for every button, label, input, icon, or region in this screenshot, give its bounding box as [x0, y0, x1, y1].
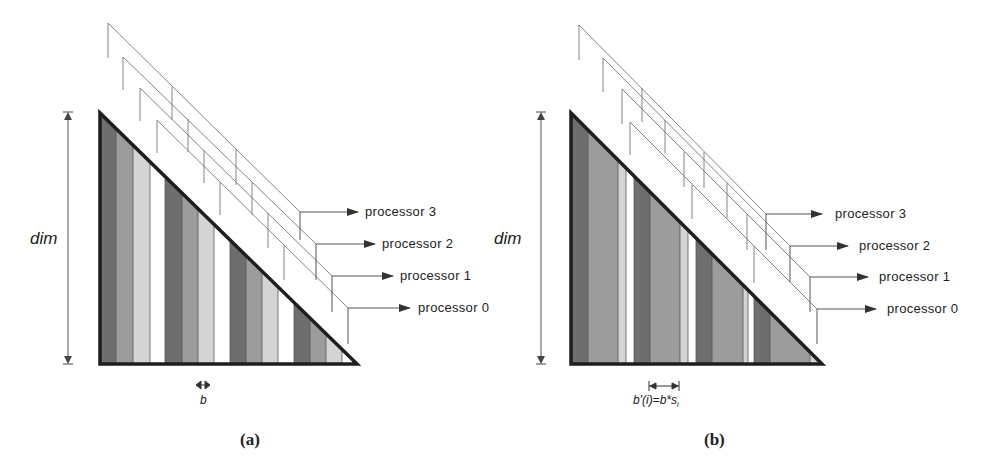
block-width-arrow-b: [649, 381, 679, 391]
block-width-arrow-a: [196, 381, 210, 389]
panel-b: [536, 25, 876, 370]
processor-1-label-b: processor 1: [879, 269, 950, 284]
panel-a: [63, 23, 410, 370]
processor-2-label-a: processor 2: [382, 236, 453, 251]
block-width-label-a: b: [200, 393, 207, 407]
processor-3-label-a: processor 3: [365, 204, 436, 219]
processor-0-label-b: processor 0: [887, 301, 958, 316]
processor-0-label-a: processor 0: [418, 300, 489, 315]
processor-1-label-a: processor 1: [400, 268, 471, 283]
dim-label-b: dim: [494, 229, 521, 249]
caption-b: (b): [704, 430, 725, 450]
processor-2-label-b: processor 2: [859, 238, 930, 253]
processor-3-label-b: processor 3: [835, 206, 906, 221]
block-width-label-b: b'(i)=b*si: [633, 393, 679, 409]
caption-a: (a): [240, 430, 260, 450]
dim-label-a: dim: [30, 229, 57, 249]
